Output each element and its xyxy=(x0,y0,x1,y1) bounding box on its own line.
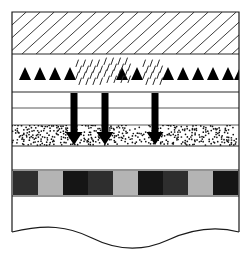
stipple-dot xyxy=(189,144,191,146)
stipple-dot xyxy=(203,136,205,138)
stipple-dot xyxy=(17,139,19,141)
stipple-dot xyxy=(115,141,117,143)
stipple-dot xyxy=(192,125,194,127)
stipple-dot xyxy=(136,132,138,134)
stipple-dot xyxy=(164,135,166,137)
stipple-dot xyxy=(165,139,167,141)
stipple-dot xyxy=(53,143,55,145)
stipple-dot xyxy=(226,136,228,138)
stipple-dot xyxy=(27,144,29,146)
stipple-dot xyxy=(190,136,192,138)
stipple-dot xyxy=(215,129,217,131)
stipple-dot xyxy=(58,130,60,132)
stipple-dot xyxy=(99,142,101,144)
stipple-dot xyxy=(26,134,28,136)
stipple-dot xyxy=(231,139,233,141)
stipple-dot xyxy=(141,141,143,143)
stipple-dot xyxy=(85,125,87,127)
stipple-dot xyxy=(221,138,223,140)
stipple-dot xyxy=(60,125,62,127)
stipple-dot xyxy=(235,138,237,140)
stipple-dot xyxy=(145,131,147,133)
stipple-dot xyxy=(19,136,21,138)
stipple-dot xyxy=(56,127,58,129)
stipple-dot xyxy=(28,134,30,136)
stipple-dot xyxy=(34,141,36,143)
stipple-dot xyxy=(21,138,23,140)
stipple-dot xyxy=(177,139,179,141)
stipple-dot xyxy=(138,133,140,135)
stipple-dot xyxy=(193,143,195,145)
stipple-dot xyxy=(100,130,102,132)
block-cell xyxy=(63,171,88,195)
stipple-dot xyxy=(21,125,23,127)
stipple-dot xyxy=(37,134,39,136)
stipple-dot xyxy=(35,127,37,129)
stipple-dot xyxy=(41,143,43,145)
stipple-dot xyxy=(60,131,62,133)
stipple-dot xyxy=(26,136,28,138)
stipple-dot xyxy=(208,141,210,143)
stipple-dot xyxy=(28,139,30,141)
stipple-dot xyxy=(23,129,25,131)
stipple-dot xyxy=(170,125,172,127)
stipple-dot xyxy=(66,130,68,132)
stipple-dot xyxy=(16,130,18,132)
stipple-dot xyxy=(118,131,120,133)
stipple-dot xyxy=(113,132,115,134)
stipple-dot xyxy=(30,143,32,145)
stipple-dot xyxy=(84,131,86,133)
stipple-dot xyxy=(140,133,142,135)
stipple-dot xyxy=(63,133,65,135)
stipple-dot xyxy=(168,134,170,136)
stipple-dot xyxy=(205,134,207,136)
stipple-dot xyxy=(210,130,212,132)
stipple-dot xyxy=(160,143,162,145)
stipple-dot xyxy=(42,125,44,127)
stipple-dot xyxy=(88,143,90,145)
stipple-dot xyxy=(203,127,205,129)
stipple-dot xyxy=(132,135,134,137)
stipple-dot xyxy=(29,137,31,139)
stipple-dot xyxy=(110,139,112,141)
stipple-dot xyxy=(224,132,226,134)
stipple-dot xyxy=(200,125,202,127)
stipple-dot xyxy=(202,131,204,133)
stipple-dot xyxy=(97,128,99,130)
stipple-dot xyxy=(184,140,186,142)
stipple-dot xyxy=(49,127,51,129)
stipple-dot xyxy=(145,141,147,143)
stipple-dot xyxy=(217,141,219,143)
stipple-dot xyxy=(228,129,230,131)
stipple-dot xyxy=(166,134,168,136)
stipple-dot xyxy=(53,125,55,127)
stipple-dot xyxy=(181,143,183,145)
stipple-dot xyxy=(44,137,46,139)
stipple-dot xyxy=(215,134,217,136)
stipple-dot xyxy=(52,136,54,138)
stipple-dot xyxy=(83,140,85,142)
stipple-dot xyxy=(87,125,89,127)
figure-canvas xyxy=(0,0,251,258)
stipple-dot xyxy=(95,130,97,132)
stipple-dot xyxy=(26,129,28,131)
stipple-dot xyxy=(23,144,25,146)
stipple-dot xyxy=(131,138,133,140)
stipple-dot xyxy=(88,127,90,129)
stipple-dot xyxy=(109,129,111,131)
block-cell xyxy=(163,171,188,195)
stipple-dot xyxy=(18,132,20,134)
stipple-dot xyxy=(194,132,196,134)
stipple-dot xyxy=(217,133,219,135)
stipple-dot xyxy=(123,129,125,131)
block-cell xyxy=(188,171,213,195)
stipple-dot xyxy=(46,132,48,134)
stipple-dot xyxy=(208,133,210,135)
stipple-dot xyxy=(129,129,131,131)
stipple-dot xyxy=(137,136,139,138)
stipple-dot xyxy=(67,137,69,139)
stipple-dot xyxy=(180,126,182,128)
block-cell xyxy=(38,171,63,195)
stipple-dot xyxy=(97,139,99,141)
stipple-dot xyxy=(65,134,67,136)
